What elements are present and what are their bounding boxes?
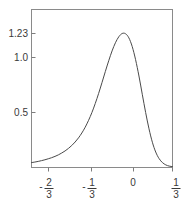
x-label-1-numerator: 1: [89, 177, 95, 188]
x-label-2-numerator: 0: [130, 177, 136, 188]
x-label-0-numerator: 2: [46, 177, 52, 188]
x-label-3-numerator: 1: [173, 177, 179, 188]
density-curve-chart: 1.23 1.0 0.5 - 2 3 - 1 3 0: [0, 0, 186, 202]
x-axis-labels: - 2 3 - 1 3 0 1 3: [39, 177, 180, 200]
x-label-3-denominator: 3: [173, 189, 179, 200]
plot-frame: [32, 10, 173, 168]
y-axis-labels: 1.23 1.0 0.5: [9, 28, 29, 118]
x-label-1-denominator: 3: [89, 189, 95, 200]
x-axis-label-neg-two-thirds: - 2 3: [39, 177, 53, 200]
x-label-0-denominator: 3: [46, 189, 52, 200]
y-axis-label-123: 1.23: [9, 28, 29, 39]
density-curve-path: [32, 33, 173, 166]
x-label-1-sign: -: [82, 181, 85, 192]
y-axis-ticks: [32, 34, 36, 113]
y-axis-label-10: 1.0: [14, 52, 28, 63]
x-axis-ticks: [49, 168, 173, 172]
y-axis-label-05: 0.5: [14, 107, 28, 118]
x-axis-label-neg-one-third: - 1 3: [82, 177, 96, 200]
x-axis-label-zero: 0: [130, 177, 136, 188]
x-axis-label-one-third: 1 3: [172, 177, 181, 200]
x-label-0-sign: -: [39, 181, 42, 192]
chart-container: 1.23 1.0 0.5 - 2 3 - 1 3 0: [0, 0, 186, 202]
